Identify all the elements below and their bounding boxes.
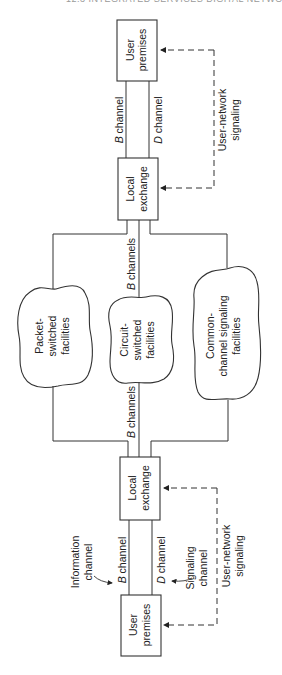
packet-switched-line3: facilities: [59, 317, 71, 354]
common-channel-line3: facilities: [230, 317, 242, 354]
circuit-switched-line3: facilities: [144, 321, 156, 358]
user-premises-top-line1: User: [124, 38, 136, 61]
line-to-packet-switched-top: [53, 220, 127, 290]
packet-switched-facilities: Packet- switched facilities: [18, 286, 93, 388]
user-premises-top-line2: premises: [136, 29, 148, 72]
user-premises-bottom-line2: premises: [140, 604, 152, 647]
local-exchange-bottom-line1: Local: [126, 475, 138, 500]
local-exchange-top-line1: Local: [124, 176, 136, 201]
information-channel-pointer: [94, 576, 112, 583]
packet-switched-line1: Packet-: [33, 318, 45, 354]
information-channel-line2: channel: [82, 544, 94, 581]
circuit-switched-line2: switched: [131, 319, 143, 360]
d-channel-bottom-label: D channel: [155, 536, 167, 583]
signaling-channel-line2: channel: [197, 550, 209, 587]
packet-switched-line2: switched: [46, 315, 58, 356]
common-channel-line1: Common-: [204, 312, 216, 359]
b-channels-lower-label: B channels: [125, 386, 137, 438]
local-exchange-bottom-line2: exchange: [139, 465, 151, 511]
user-premises-bottom: User premises: [121, 595, 161, 656]
information-channel-line1: Information: [69, 536, 81, 589]
local-exchange-bottom: Local exchange: [120, 457, 160, 520]
line-from-packet-switched-bottom: [53, 386, 128, 457]
user-premises-bottom-line1: User: [127, 613, 139, 636]
line-from-common-channel-bottom: [151, 400, 228, 457]
signaling-channel-line1: Signaling: [184, 546, 196, 589]
user-network-signaling-top-line2: signaling: [229, 99, 241, 141]
line-to-common-channel-top: [150, 220, 227, 268]
local-exchange-top-line2: exchange: [137, 166, 149, 212]
b-channels-upper-label: B channels: [125, 238, 137, 290]
user-network-signaling-top-path: [161, 50, 214, 188]
common-channel-line2: channel signaling: [217, 295, 229, 376]
user-premises-top: User premises: [117, 20, 157, 81]
user-network-signaling-bottom-line1: User-network: [220, 524, 232, 587]
user-network-signaling-bottom-line2: signaling: [233, 535, 245, 577]
d-channel-top-label: D channel: [152, 96, 164, 143]
local-exchange-top: Local exchange: [118, 158, 158, 220]
circuit-switched-facilities: Circuit- switched facilities: [109, 296, 174, 383]
b-channel-bottom-label: B channel: [116, 537, 128, 584]
isdn-diagram: User premises B channel D channel User-n…: [0, 0, 282, 675]
user-network-signaling-top-line1: User-network: [216, 88, 228, 151]
b-channel-top-label: B channel: [113, 97, 125, 144]
common-channel-signaling-facilities: Common- channel signaling facilities: [193, 267, 261, 400]
circuit-switched-line1: Circuit-: [118, 323, 130, 357]
